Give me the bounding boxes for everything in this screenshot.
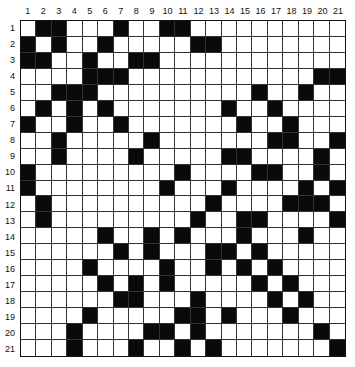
grid-cell-empty[interactable] xyxy=(283,69,298,85)
grid-cell-filled[interactable] xyxy=(21,181,36,197)
grid-cell-empty[interactable] xyxy=(314,85,329,101)
grid-cell-empty[interactable] xyxy=(330,37,345,53)
grid-cell-filled[interactable] xyxy=(268,292,283,308)
grid-cell-empty[interactable] xyxy=(98,212,113,228)
grid-cell-empty[interactable] xyxy=(191,260,206,276)
grid-cell-empty[interactable] xyxy=(268,276,283,292)
grid-cell-filled[interactable] xyxy=(222,101,237,117)
grid-cell-empty[interactable] xyxy=(114,133,129,149)
grid-cell-empty[interactable] xyxy=(98,196,113,212)
grid-cell-filled[interactable] xyxy=(237,149,252,165)
grid-cell-empty[interactable] xyxy=(283,181,298,197)
grid-cell-empty[interactable] xyxy=(252,324,267,340)
grid-cell-empty[interactable] xyxy=(299,244,314,260)
grid-cell-filled[interactable] xyxy=(83,260,98,276)
grid-cell-empty[interactable] xyxy=(144,117,159,133)
grid-cell-empty[interactable] xyxy=(175,117,190,133)
grid-cell-empty[interactable] xyxy=(191,228,206,244)
grid-cell-empty[interactable] xyxy=(314,228,329,244)
grid-cell-empty[interactable] xyxy=(67,133,82,149)
grid-cell-empty[interactable] xyxy=(268,228,283,244)
grid-cell-filled[interactable] xyxy=(36,53,51,69)
grid-cell-empty[interactable] xyxy=(129,181,144,197)
grid-cell-empty[interactable] xyxy=(52,69,67,85)
grid-cell-empty[interactable] xyxy=(314,244,329,260)
grid-cell-filled[interactable] xyxy=(98,69,113,85)
grid-cell-empty[interactable] xyxy=(114,276,129,292)
grid-cell-empty[interactable] xyxy=(222,276,237,292)
grid-cell-empty[interactable] xyxy=(299,53,314,69)
grid-cell-filled[interactable] xyxy=(222,149,237,165)
grid-cell-empty[interactable] xyxy=(206,133,221,149)
grid-cell-empty[interactable] xyxy=(175,324,190,340)
grid-cell-filled[interactable] xyxy=(299,181,314,197)
grid-cell-empty[interactable] xyxy=(299,340,314,356)
grid-cell-empty[interactable] xyxy=(36,324,51,340)
grid-cell-empty[interactable] xyxy=(268,149,283,165)
grid-cell-empty[interactable] xyxy=(252,260,267,276)
grid-cell-empty[interactable] xyxy=(237,133,252,149)
grid-cell-empty[interactable] xyxy=(237,37,252,53)
grid-cell-filled[interactable] xyxy=(67,117,82,133)
grid-cell-empty[interactable] xyxy=(98,308,113,324)
grid-cell-filled[interactable] xyxy=(129,149,144,165)
grid-cell-empty[interactable] xyxy=(191,133,206,149)
grid-cell-empty[interactable] xyxy=(330,21,345,37)
grid-cell-empty[interactable] xyxy=(67,196,82,212)
grid-cell-empty[interactable] xyxy=(283,37,298,53)
grid-cell-empty[interactable] xyxy=(268,69,283,85)
grid-cell-empty[interactable] xyxy=(160,292,175,308)
grid-cell-empty[interactable] xyxy=(191,69,206,85)
grid-cell-empty[interactable] xyxy=(175,101,190,117)
grid-cell-filled[interactable] xyxy=(252,212,267,228)
grid-cell-empty[interactable] xyxy=(299,149,314,165)
grid-cell-empty[interactable] xyxy=(175,276,190,292)
grid-cell-empty[interactable] xyxy=(160,212,175,228)
grid-cell-empty[interactable] xyxy=(52,324,67,340)
grid-cell-empty[interactable] xyxy=(114,228,129,244)
grid-cell-empty[interactable] xyxy=(268,117,283,133)
grid-cell-empty[interactable] xyxy=(191,85,206,101)
grid-cell-empty[interactable] xyxy=(83,228,98,244)
grid-cell-filled[interactable] xyxy=(206,37,221,53)
grid-cell-empty[interactable] xyxy=(21,85,36,101)
grid-cell-filled[interactable] xyxy=(144,324,159,340)
grid-cell-filled[interactable] xyxy=(83,308,98,324)
grid-cell-empty[interactable] xyxy=(36,165,51,181)
grid-cell-filled[interactable] xyxy=(314,69,329,85)
grid-cell-empty[interactable] xyxy=(144,69,159,85)
grid-cell-empty[interactable] xyxy=(268,308,283,324)
grid-cell-empty[interactable] xyxy=(36,276,51,292)
grid-cell-empty[interactable] xyxy=(83,21,98,37)
grid-cell-empty[interactable] xyxy=(237,69,252,85)
grid-cell-empty[interactable] xyxy=(21,260,36,276)
grid-cell-empty[interactable] xyxy=(98,324,113,340)
grid-cell-filled[interactable] xyxy=(144,228,159,244)
grid-cell-empty[interactable] xyxy=(21,244,36,260)
grid-cell-empty[interactable] xyxy=(330,101,345,117)
grid-cell-empty[interactable] xyxy=(83,149,98,165)
grid-cell-empty[interactable] xyxy=(83,276,98,292)
grid-cell-filled[interactable] xyxy=(175,21,190,37)
grid-cell-empty[interactable] xyxy=(252,53,267,69)
grid-cell-empty[interactable] xyxy=(129,85,144,101)
grid-cell-empty[interactable] xyxy=(160,308,175,324)
grid-cell-empty[interactable] xyxy=(129,244,144,260)
grid-cell-filled[interactable] xyxy=(98,228,113,244)
grid-cell-empty[interactable] xyxy=(299,133,314,149)
grid-cell-empty[interactable] xyxy=(36,133,51,149)
grid-cell-empty[interactable] xyxy=(98,292,113,308)
grid-cell-empty[interactable] xyxy=(36,244,51,260)
grid-cell-empty[interactable] xyxy=(175,196,190,212)
grid-cell-empty[interactable] xyxy=(144,196,159,212)
grid-cell-empty[interactable] xyxy=(252,37,267,53)
grid-cell-empty[interactable] xyxy=(222,69,237,85)
grid-cell-empty[interactable] xyxy=(52,276,67,292)
grid-cell-empty[interactable] xyxy=(299,324,314,340)
grid-cell-empty[interactable] xyxy=(283,292,298,308)
grid-cell-filled[interactable] xyxy=(252,165,267,181)
grid-cell-empty[interactable] xyxy=(83,101,98,117)
grid-cell-empty[interactable] xyxy=(98,21,113,37)
grid-cell-empty[interactable] xyxy=(36,85,51,101)
grid-cell-empty[interactable] xyxy=(222,37,237,53)
